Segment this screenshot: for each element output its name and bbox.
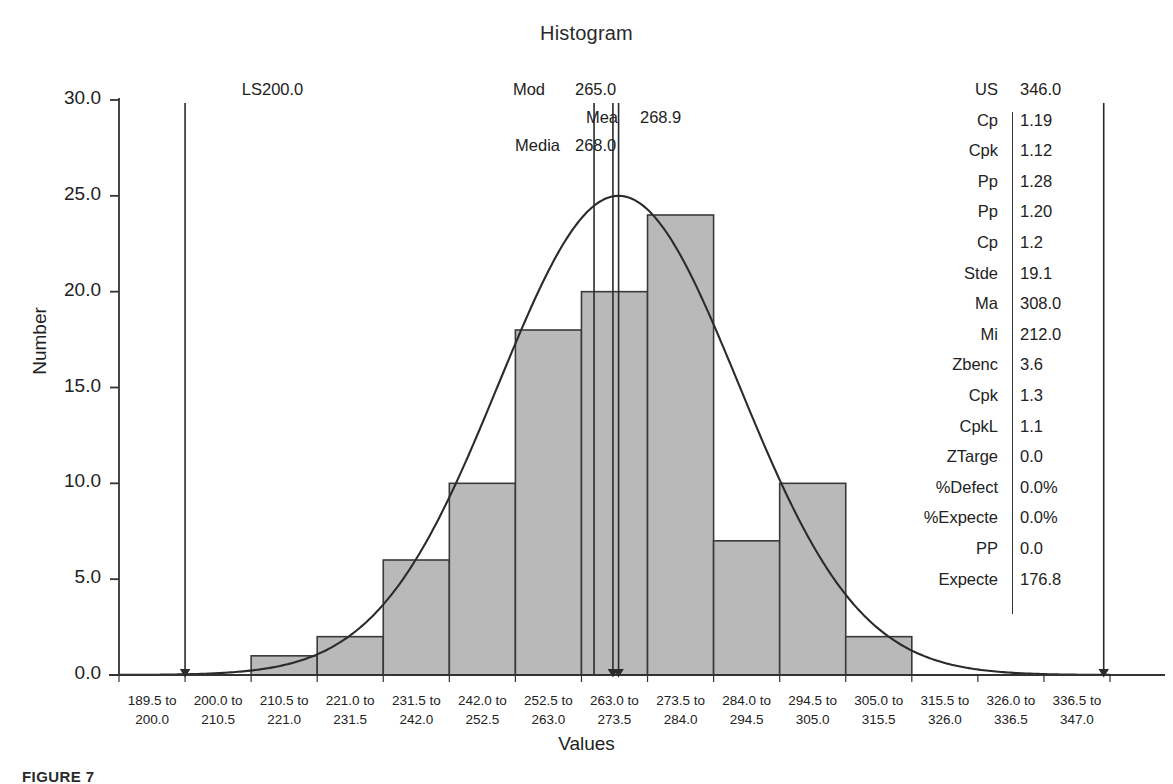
stats-value: 308.0	[1020, 294, 1061, 313]
annotation-value-mean: 268.9	[640, 108, 681, 127]
stats-value: 1.1	[1020, 417, 1043, 436]
stats-row: Stde19.1	[905, 264, 1110, 295]
y-axis-tick-label: 25.0	[31, 183, 101, 205]
stats-key: %Expecte	[924, 508, 998, 527]
x-axis-tick-label: 336.5 to347.0	[1036, 691, 1118, 729]
histogram-bar	[383, 560, 449, 675]
stats-value: 176.8	[1020, 570, 1061, 589]
stats-row: CpkL1.1	[905, 417, 1110, 448]
stats-key: Pp	[978, 172, 998, 191]
stats-key: Cp	[977, 233, 998, 252]
histogram-bar	[449, 483, 515, 675]
stats-value: 1.28	[1020, 172, 1052, 191]
stats-row: ZTarge0.0	[905, 447, 1110, 478]
histogram-bar	[648, 215, 714, 675]
stats-row: Mi212.0	[905, 325, 1110, 356]
histogram-bar	[581, 292, 647, 675]
figure-caption: FIGURE 7	[22, 768, 94, 784]
stats-key: %Defect	[936, 478, 998, 497]
stats-value: 3.6	[1020, 355, 1043, 374]
stats-value: 1.12	[1020, 141, 1052, 160]
y-axis-tick-label: 20.0	[31, 279, 101, 301]
annotation-value-median: 268.0	[575, 136, 616, 155]
stats-value: 0.0	[1020, 539, 1043, 558]
annotation-value-lsl: 200.0	[262, 80, 303, 99]
stats-row: %Defect0.0%	[905, 478, 1110, 509]
annotation-label-median: Media	[515, 136, 560, 155]
annotation-value-mode: 265.0	[575, 80, 616, 99]
stats-row: Expecte176.8	[905, 570, 1110, 601]
stats-key: Cpk	[969, 386, 998, 405]
stats-key: Zbenc	[952, 355, 998, 374]
y-axis-tick-label: 30.0	[31, 87, 101, 109]
stats-row: Cp1.19	[905, 111, 1110, 142]
y-axis-tick-label: 10.0	[31, 470, 101, 492]
stats-key: Cp	[977, 111, 998, 130]
histogram-bar	[780, 483, 846, 675]
annotation-label-mean: Mea	[586, 108, 618, 127]
stats-value: 1.20	[1020, 202, 1052, 221]
stats-value: 1.3	[1020, 386, 1043, 405]
histogram-bar	[515, 330, 581, 675]
stats-key: Cpk	[969, 141, 998, 160]
stats-value: 212.0	[1020, 325, 1061, 344]
stats-key: CpkL	[959, 417, 998, 436]
y-axis-tick-label: 5.0	[31, 566, 101, 588]
stats-value: 346.0	[1020, 80, 1061, 99]
histogram-figure: Histogram Number Values 0.05.010.015.020…	[0, 0, 1173, 784]
stats-value: 0.0%	[1020, 508, 1058, 527]
stats-key: PP	[976, 539, 998, 558]
annotation-label-lsl: LS	[242, 80, 262, 99]
stats-key: Mi	[981, 325, 998, 344]
stats-row: Pp1.28	[905, 172, 1110, 203]
stats-value: 0.0	[1020, 447, 1043, 466]
stats-row: %Expecte0.0%	[905, 508, 1110, 539]
y-axis-tick-label: 15.0	[31, 375, 101, 397]
stats-value: 1.19	[1020, 111, 1052, 130]
stats-row: US346.0	[905, 80, 1110, 111]
stats-key: Pp	[978, 202, 998, 221]
stats-row: Zbenc3.6	[905, 355, 1110, 386]
stats-value: 0.0%	[1020, 478, 1058, 497]
bars-group	[251, 215, 912, 675]
stats-row: PP0.0	[905, 539, 1110, 570]
stats-value: 1.2	[1020, 233, 1043, 252]
stats-key: Ma	[975, 294, 998, 313]
stats-key: ZTarge	[947, 447, 998, 466]
annotation-label-mode: Mod	[513, 80, 545, 99]
histogram-bar	[714, 541, 780, 675]
stats-row: Ma308.0	[905, 294, 1110, 325]
stats-row: Cpk1.3	[905, 386, 1110, 417]
histogram-bar	[846, 637, 912, 675]
stats-key: Stde	[964, 264, 998, 283]
histogram-bar	[317, 637, 383, 675]
stats-key: US	[975, 80, 998, 99]
stats-row: Pp1.20	[905, 202, 1110, 233]
stats-table: US346.0Cp1.19Cpk1.12Pp1.28Pp1.20Cp1.2Std…	[905, 80, 1110, 600]
stats-key: Expecte	[938, 570, 998, 589]
y-axis-tick-label: 0.0	[31, 662, 101, 684]
stats-row: Cpk1.12	[905, 141, 1110, 172]
stats-row: Cp1.2	[905, 233, 1110, 264]
stats-value: 19.1	[1020, 264, 1052, 283]
